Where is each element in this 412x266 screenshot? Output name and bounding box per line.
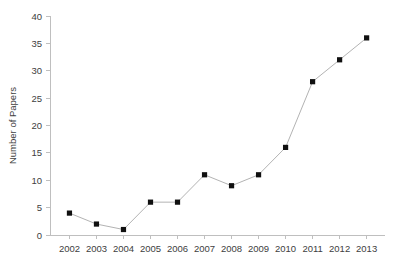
data-point-marker — [175, 200, 180, 205]
y-tick-label: 15 — [31, 147, 42, 158]
x-tick-label: 2004 — [113, 243, 134, 254]
data-point-marker — [364, 35, 369, 40]
x-axis-group: 2002200320042005200620072008200920102011… — [50, 235, 385, 254]
data-point-marker — [121, 227, 126, 232]
y-axis-ticks: 0510152025303540 — [31, 11, 50, 241]
x-tick-label: 2005 — [140, 243, 161, 254]
x-tick-label: 2002 — [59, 243, 80, 254]
y-tick-label: 5 — [37, 202, 42, 213]
chart-canvas: 0510152025303540 20022003200420052006200… — [0, 0, 412, 266]
y-axis-group: 0510152025303540 — [31, 11, 50, 241]
data-point-marker — [256, 172, 261, 177]
x-tick-label: 2011 — [302, 243, 322, 254]
x-tick-label: 2006 — [167, 243, 188, 254]
series-line-number-of-papers — [69, 38, 366, 230]
y-tick-label: 35 — [31, 38, 42, 49]
x-tick-label: 2013 — [356, 243, 377, 254]
x-tick-label: 2010 — [275, 243, 296, 254]
y-tick-label: 20 — [31, 120, 42, 131]
x-tick-label: 2008 — [221, 243, 242, 254]
data-point-marker — [337, 57, 342, 62]
y-axis-title: Number of Papers — [7, 87, 18, 164]
data-point-marker — [148, 200, 153, 205]
y-tick-label: 0 — [37, 230, 42, 241]
data-point-marker — [94, 221, 99, 226]
data-point-marker — [202, 172, 207, 177]
x-tick-label: 2009 — [248, 243, 269, 254]
x-tick-label: 2003 — [86, 243, 107, 254]
data-point-marker — [310, 79, 315, 84]
data-point-marker — [283, 145, 288, 150]
line-chart: 0510152025303540 20022003200420052006200… — [0, 0, 412, 266]
x-axis-ticks: 2002200320042005200620072008200920102011… — [59, 235, 377, 254]
data-point-marker — [229, 183, 234, 188]
x-tick-label: 2012 — [329, 243, 350, 254]
x-tick-label: 2007 — [194, 243, 215, 254]
series-markers — [67, 35, 369, 232]
plot-area — [67, 35, 369, 232]
y-tick-label: 25 — [31, 93, 42, 104]
y-tick-label: 10 — [31, 175, 42, 186]
y-tick-label: 30 — [31, 65, 42, 76]
y-tick-label: 40 — [31, 11, 42, 22]
data-point-marker — [67, 211, 72, 216]
